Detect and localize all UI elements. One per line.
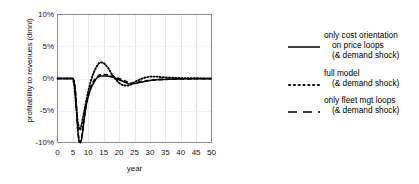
legend: only cost orientationon price loops(& de… — [288, 30, 419, 122]
series-lines — [58, 63, 212, 143]
legend-label-line: (& demand shock) — [332, 105, 419, 115]
legend-label-line: (& demand shock) — [332, 78, 419, 88]
series-line-solid — [58, 76, 212, 143]
legend-label-line: (& demand shock) — [332, 50, 419, 60]
legend-entry: full model(& demand shock) — [288, 68, 419, 88]
legend-label: only fleet mgt loops(& demand shock) — [324, 95, 419, 115]
legend-line-sample-dotted — [288, 73, 322, 76]
legend-line-sample-dashed — [288, 100, 322, 103]
legend-entry: only cost orientationon price loops(& de… — [288, 30, 419, 61]
legend-label-line: full model — [324, 68, 419, 78]
chart-figure: profitability to revenues (dmnl) -10%-5%… — [0, 0, 419, 184]
series-line-dashed — [58, 75, 212, 143]
legend-label: full model(& demand shock) — [324, 68, 419, 88]
legend-label-line: only fleet mgt loops — [324, 95, 419, 105]
legend-label: only cost orientationon price loops(& de… — [324, 30, 419, 61]
legend-line-sample-solid — [288, 35, 322, 38]
legend-label-line: only cost orientation — [324, 30, 419, 40]
series-line-dotted — [58, 63, 212, 130]
legend-entry: only fleet mgt loops(& demand shock) — [288, 95, 419, 115]
legend-label-line: on price loops — [332, 40, 419, 50]
